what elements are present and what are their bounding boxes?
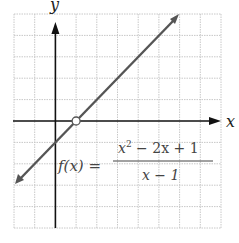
equation-denominator: x − 1 [142, 167, 179, 183]
x-axis-label: x [226, 112, 235, 131]
x-axis [13, 117, 221, 125]
equation-lhs: f(x) = [57, 157, 101, 175]
y-axis [51, 22, 59, 228]
function-graph: x y f(x) = x2 − 2x + 1 x − 1 [0, 0, 239, 243]
y-axis-label: y [49, 0, 60, 14]
equation-label: f(x) = x2 − 2x + 1 x − 1 [57, 139, 213, 183]
y-axis-arrow-icon [51, 22, 59, 34]
x-axis-arrow-icon [209, 117, 221, 125]
hole-marker [72, 117, 80, 125]
equation-numerator: x2 − 2x + 1 [118, 139, 199, 156]
